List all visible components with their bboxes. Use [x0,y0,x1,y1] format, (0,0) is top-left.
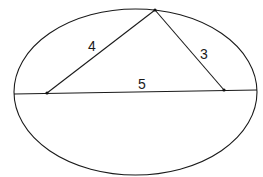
vertex-left [45,91,48,94]
label-base: 5 [138,76,146,92]
triangle-side-right [155,10,224,90]
diagram-canvas: 4 3 5 [0,0,263,177]
vertex-right [222,88,225,91]
label-side-right: 3 [200,46,208,62]
vertex-top [153,8,156,11]
label-side-left: 4 [88,38,96,54]
